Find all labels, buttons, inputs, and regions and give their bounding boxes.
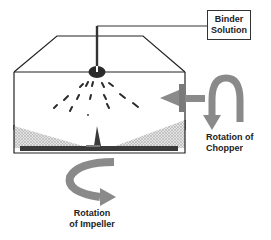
binder-label-line1: Binder: [215, 14, 244, 25]
impeller-rotation-label: Rotation of Impeller: [62, 208, 122, 230]
impeller-rotation-icon: [70, 162, 116, 206]
impeller-label-line2: of Impeller: [62, 219, 122, 230]
binder-feed-line: [97, 26, 207, 68]
chopper-arrow-icon: [160, 84, 205, 112]
binder-solution-label-box: Binder Solution: [207, 10, 251, 40]
vessel-body: [14, 72, 185, 130]
chopper-label-line1: Rotation of: [206, 132, 264, 143]
spray-droplets: [54, 82, 138, 116]
impeller-label-line1: Rotation: [62, 208, 122, 219]
chopper-label-line2: Chopper: [206, 143, 264, 154]
binder-label-line2: Solution: [211, 25, 247, 36]
chopper-rotation-label: Rotation of Chopper: [206, 132, 264, 154]
impeller-blade: [94, 126, 101, 146]
chopper-rotation-icon: [203, 78, 240, 130]
